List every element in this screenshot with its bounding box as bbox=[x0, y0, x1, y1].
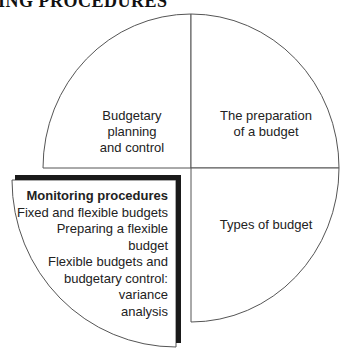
label-line: planning bbox=[70, 124, 194, 140]
label-line: Flexible budgets and bbox=[14, 254, 168, 271]
quadrant-bottom-left-label: Monitoring procedures Fixed and flexible… bbox=[14, 188, 168, 320]
highlight-top-bar bbox=[15, 175, 181, 180]
quadrant-bottom-right-label: Types of budget bbox=[210, 217, 322, 233]
label-line: Types of budget bbox=[210, 217, 322, 233]
label-line: and control bbox=[70, 140, 194, 156]
label-line: budget bbox=[14, 238, 168, 255]
label-line: Preparing a flexible bbox=[14, 221, 168, 238]
label-line: Budgetary bbox=[70, 108, 194, 124]
label-line: variance bbox=[14, 287, 168, 304]
quadrant-top-right-shape bbox=[191, 14, 339, 168]
label-line: of a budget bbox=[210, 124, 322, 140]
highlighted-section-title: Monitoring procedures bbox=[14, 188, 168, 205]
label-line: Fixed and flexible budgets bbox=[14, 205, 168, 222]
highlight-right-bar bbox=[176, 175, 181, 343]
label-line: The preparation bbox=[210, 108, 322, 124]
quadrant-top-right-label: The preparation of a budget bbox=[210, 108, 322, 140]
quadrant-top-left-label: Budgetary planning and control bbox=[70, 108, 194, 156]
label-line: analysis bbox=[14, 304, 168, 321]
label-line: budgetary control: bbox=[14, 271, 168, 288]
quadrant-bottom-right-shape bbox=[191, 168, 339, 322]
